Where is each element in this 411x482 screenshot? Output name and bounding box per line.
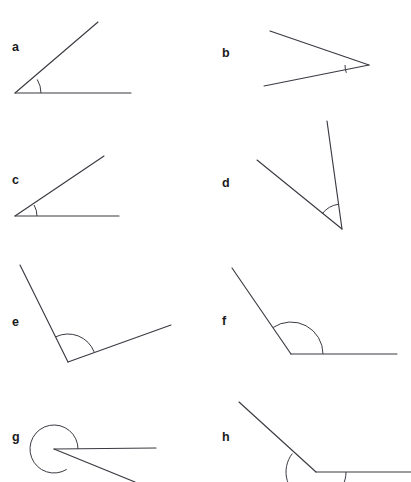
angle-g-ray-lower-right (54, 449, 135, 482)
angle-h-arc (286, 454, 346, 482)
angle-c-arc (34, 205, 37, 216)
angle-label-e: e (12, 315, 19, 329)
angle-figure-d: d (222, 121, 342, 229)
angles-worksheet-figure: abcdefgh (0, 0, 411, 482)
angle-c-ray-upper-right (15, 156, 104, 216)
angle-b-ray-upper-left (270, 31, 369, 65)
angle-e-ray-upper-left (20, 265, 68, 362)
angle-figure-b: b (222, 31, 369, 86)
angle-e-ray-upper-right (68, 325, 171, 362)
angle-a-ray-upper-right (15, 22, 98, 93)
angle-figure-a: a (12, 22, 131, 93)
angle-d-arc (322, 204, 338, 214)
angle-figure-e: e (12, 265, 171, 362)
angle-label-h: h (222, 430, 230, 444)
angle-g-ray-horizontal-right (54, 448, 156, 449)
angle-d-ray-upper-slightly-left (327, 121, 342, 229)
angle-label-c: c (12, 173, 19, 187)
angle-figure-f: f (222, 268, 397, 354)
angle-d-ray-upper-left (257, 160, 342, 229)
angle-figure-g: g (12, 425, 156, 482)
angle-figure-h: h (222, 402, 411, 482)
angle-figure-c: c (12, 156, 119, 216)
angle-b-ray-lower-left (264, 65, 369, 86)
angle-label-d: d (222, 176, 230, 190)
angle-label-g: g (12, 430, 20, 444)
angle-h-ray-upper-left (239, 402, 316, 472)
angle-f-ray-upper-left (232, 268, 291, 354)
angle-a-arc (37, 79, 41, 93)
angle-label-a: a (12, 40, 20, 54)
angle-label-f: f (222, 314, 227, 328)
angle-b-arc (345, 65, 346, 73)
angle-label-b: b (222, 46, 230, 60)
angles-diagram-canvas: abcdefgh (0, 0, 411, 482)
